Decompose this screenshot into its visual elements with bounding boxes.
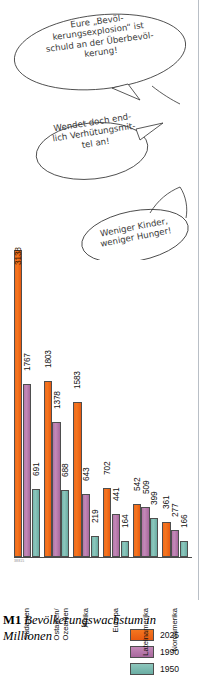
bar-value-label: 441 bbox=[111, 487, 121, 500]
bar: 688 bbox=[61, 490, 69, 557]
bar: 509 bbox=[141, 507, 149, 557]
bar-value-label: 164 bbox=[120, 515, 130, 528]
bar-value-label: 691 bbox=[31, 463, 41, 476]
bar-group: 18031378688 bbox=[44, 250, 74, 557]
bar-group: 702441164 bbox=[103, 250, 133, 557]
bar: 691 bbox=[32, 489, 40, 557]
bar: 702 bbox=[103, 488, 111, 557]
bar: 219 bbox=[91, 536, 99, 557]
bar-value-label: 702 bbox=[102, 462, 112, 475]
legend-swatch-1950-icon bbox=[130, 663, 154, 675]
bar: 1803 bbox=[44, 381, 52, 557]
bar-value-label: 643 bbox=[81, 468, 91, 481]
population-growth-bar-chart: 3138176769118031378688158364321970244116… bbox=[0, 250, 207, 560]
bar: 164 bbox=[121, 541, 129, 557]
legend-label-1950: 1950 bbox=[160, 664, 179, 674]
bar: 361 bbox=[162, 522, 170, 557]
legend-item-1950: 1950 bbox=[130, 662, 196, 675]
bar-value-label: 3138 bbox=[13, 247, 23, 265]
bar-group: 1583643219 bbox=[73, 250, 103, 557]
legend-item-1990: 1990 bbox=[130, 645, 196, 658]
chart-plot-area: 3138176769118031378688158364321970244116… bbox=[14, 250, 192, 557]
bar-value-label: 166 bbox=[179, 514, 189, 527]
bar-value-label: 399 bbox=[149, 492, 159, 505]
bar: 542 bbox=[133, 504, 141, 557]
bar: 1378 bbox=[52, 422, 60, 557]
bar-value-label: 688 bbox=[60, 463, 70, 476]
bar: 399 bbox=[150, 518, 158, 557]
caption-text: Bevölkerungswachstum in Millionen bbox=[3, 613, 156, 643]
chart-x-axis-labels: SüdasienOstasien/ OzeanienAfrikaEuropaLa… bbox=[0, 562, 207, 610]
bar-value-label: 1767 bbox=[22, 353, 32, 371]
bar-group: 361277166 bbox=[162, 250, 192, 557]
caption-id: M1 bbox=[3, 613, 21, 627]
figure-caption: M1Bevölkerungswachstum in Millionen bbox=[3, 612, 199, 644]
chart-x-axis bbox=[14, 557, 192, 558]
bar-value-label: 219 bbox=[90, 509, 100, 522]
bar-value-label: 1803 bbox=[43, 350, 53, 368]
bar-group: 31381767691 bbox=[14, 250, 44, 557]
bar: 166 bbox=[180, 541, 188, 557]
bar: 277 bbox=[171, 530, 179, 557]
bar-group: 542509399 bbox=[133, 250, 163, 557]
bar: 1767 bbox=[23, 384, 31, 557]
bar: 441 bbox=[112, 514, 120, 557]
bar-value-label: 1378 bbox=[52, 391, 62, 409]
bar: 3138 bbox=[14, 250, 22, 557]
speech-bubble-group: Eure „Bevöl- kerungsexplosion“ ist schul… bbox=[0, 0, 207, 260]
bar-value-label: 1583 bbox=[72, 371, 82, 389]
bar: 643 bbox=[82, 494, 90, 557]
